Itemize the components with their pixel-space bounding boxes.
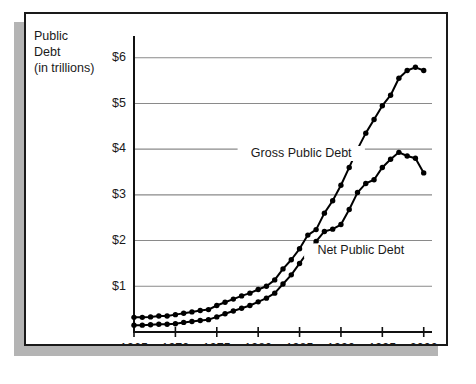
x-axis-labels: 19651970197519801985199019952000 bbox=[120, 327, 438, 344]
ytick-label-6: $6 bbox=[112, 50, 126, 64]
data-point bbox=[181, 311, 186, 316]
data-point bbox=[289, 257, 294, 262]
data-point bbox=[280, 266, 285, 271]
data-point bbox=[214, 303, 219, 308]
data-point bbox=[239, 306, 244, 311]
xtick-label-1970: 1970 bbox=[161, 341, 189, 344]
public-debt-line-chart: $1$2$3$4$5$61965197019751980198519901995… bbox=[26, 14, 446, 344]
figure-root: $1$2$3$4$5$61965197019751980198519901995… bbox=[0, 0, 476, 384]
data-point bbox=[280, 281, 285, 286]
y-axis-title-line-3: (in trillions) bbox=[34, 61, 94, 75]
data-point bbox=[156, 322, 161, 327]
data-point bbox=[148, 322, 153, 327]
ytick-label-5: $5 bbox=[112, 96, 126, 110]
data-point bbox=[289, 272, 294, 277]
data-point bbox=[338, 222, 343, 227]
data-point bbox=[380, 103, 385, 108]
data-point bbox=[272, 290, 277, 295]
data-point bbox=[396, 76, 401, 81]
data-point bbox=[371, 117, 376, 122]
data-point bbox=[148, 314, 153, 319]
data-point bbox=[198, 308, 203, 313]
data-point bbox=[413, 65, 418, 70]
data-point bbox=[388, 157, 393, 162]
data-point bbox=[164, 313, 169, 318]
data-point bbox=[355, 190, 360, 195]
chart-card: $1$2$3$4$5$61965197019751980198519901995… bbox=[24, 12, 448, 346]
y-axis-title-line-1: Public bbox=[34, 29, 68, 43]
data-point bbox=[388, 93, 393, 98]
series-net bbox=[131, 150, 426, 328]
data-point bbox=[421, 170, 426, 175]
data-point bbox=[413, 156, 418, 161]
data-point bbox=[396, 150, 401, 155]
data-point bbox=[131, 315, 136, 320]
xtick-label-2000: 2000 bbox=[410, 341, 438, 344]
ytick-label-3: $3 bbox=[112, 187, 126, 201]
data-point bbox=[338, 183, 343, 188]
data-point bbox=[330, 198, 335, 203]
data-point bbox=[255, 299, 260, 304]
data-point bbox=[255, 287, 260, 292]
data-point bbox=[297, 261, 302, 266]
data-point bbox=[371, 177, 376, 182]
data-point bbox=[404, 68, 409, 73]
xtick-label-1990: 1990 bbox=[327, 341, 355, 344]
data-point bbox=[330, 226, 335, 231]
data-point bbox=[222, 311, 227, 316]
data-point bbox=[156, 313, 161, 318]
data-point bbox=[140, 315, 145, 320]
data-point bbox=[297, 246, 302, 251]
data-point bbox=[272, 277, 277, 282]
xtick-label-1995: 1995 bbox=[368, 341, 396, 344]
data-point bbox=[206, 307, 211, 312]
data-point bbox=[206, 317, 211, 322]
y-axis-title-line-2: Debt bbox=[34, 45, 61, 59]
series-label-gross: Gross Public Debt bbox=[251, 146, 352, 160]
data-point bbox=[247, 290, 252, 295]
data-point bbox=[322, 210, 327, 215]
data-point bbox=[247, 303, 252, 308]
data-point bbox=[347, 165, 352, 170]
data-point bbox=[313, 227, 318, 232]
data-point bbox=[181, 320, 186, 325]
data-point bbox=[131, 322, 136, 327]
data-point bbox=[173, 312, 178, 317]
data-point bbox=[189, 309, 194, 314]
data-point bbox=[363, 181, 368, 186]
series-line-net bbox=[134, 152, 424, 325]
chart-axes bbox=[134, 36, 432, 332]
data-point bbox=[231, 296, 236, 301]
data-point bbox=[404, 153, 409, 158]
data-point bbox=[214, 314, 219, 319]
y-axis-title: PublicDebt(in trillions) bbox=[34, 29, 94, 75]
data-point bbox=[380, 165, 385, 170]
data-point bbox=[231, 308, 236, 313]
data-point bbox=[264, 295, 269, 300]
data-point bbox=[164, 322, 169, 327]
ytick-label-1: $1 bbox=[112, 279, 126, 293]
data-point bbox=[264, 284, 269, 289]
data-point bbox=[173, 321, 178, 326]
xtick-label-1980: 1980 bbox=[244, 341, 272, 344]
series-label-net: Net Public Debt bbox=[317, 243, 404, 257]
data-point bbox=[421, 68, 426, 73]
data-point bbox=[198, 318, 203, 323]
ytick-label-2: $2 bbox=[112, 233, 126, 247]
data-point bbox=[222, 300, 227, 305]
y-axis-labels: $1$2$3$4$5$6 bbox=[112, 50, 126, 293]
data-point bbox=[305, 232, 310, 237]
data-point bbox=[140, 322, 145, 327]
data-point bbox=[322, 229, 327, 234]
ytick-label-4: $4 bbox=[112, 141, 126, 155]
data-point bbox=[189, 319, 194, 324]
data-point bbox=[347, 207, 352, 212]
data-point bbox=[363, 130, 368, 135]
xtick-label-1965: 1965 bbox=[120, 341, 148, 344]
data-point bbox=[239, 293, 244, 298]
xtick-label-1975: 1975 bbox=[203, 341, 231, 344]
xtick-label-1985: 1985 bbox=[286, 341, 314, 344]
